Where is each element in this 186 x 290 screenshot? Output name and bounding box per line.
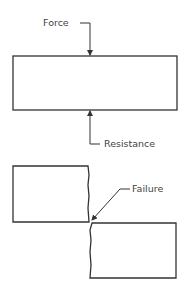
force-arrow-icon xyxy=(80,23,90,55)
resistance-label: Resistance xyxy=(104,139,155,149)
intact-block xyxy=(13,56,177,110)
force-label: Force xyxy=(43,18,69,28)
failure-arrow-icon xyxy=(92,189,130,220)
fractured-right-block xyxy=(90,223,176,278)
diagram-graphics xyxy=(0,0,186,290)
shear-failure-diagram: Force Resistance Failure xyxy=(0,0,186,290)
failure-label: Failure xyxy=(132,184,163,194)
resistance-arrow-icon xyxy=(90,111,100,144)
fractured-left-block xyxy=(13,166,89,222)
